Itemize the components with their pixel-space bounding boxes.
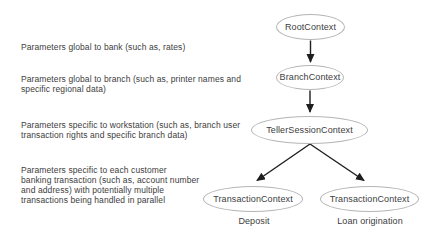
node-label: BranchContext [280, 73, 341, 82]
annotation-transaction: Parameters specific to each customer ban… [21, 165, 199, 205]
annotation-line: Parameters global to branch (such as, pr… [21, 74, 241, 84]
node-transaction-context-deposit: TransactionContext [203, 186, 303, 212]
annotation-line: banking transaction (such as, account nu… [21, 175, 199, 185]
label-loan-origination: Loan origination [337, 216, 403, 227]
arrow-teller-to-loan [310, 144, 364, 181]
annotation-line: transactions being handled in parallel [21, 195, 199, 205]
annotation-line: Parameters specific to workstation (such… [21, 120, 240, 130]
annotation-line: Parameters specific to each customer [21, 165, 199, 175]
node-root-context: RootContext [276, 14, 345, 40]
annotation-line: transaction rights and specific branch d… [21, 130, 240, 140]
annotation-bank: Parameters global to bank (such as, rate… [21, 42, 185, 52]
node-label: RootContext [285, 23, 336, 32]
node-transaction-context-loan: TransactionContext [320, 186, 419, 212]
node-label: TransactionContext [330, 195, 410, 204]
node-label: TellerSessionContext [266, 126, 353, 135]
annotation-line: specific regional data) [21, 84, 241, 94]
context-hierarchy-diagram: Parameters global to bank (such as, rate… [0, 0, 441, 238]
node-label: TransactionContext [213, 195, 293, 204]
annotation-workstation: Parameters specific to workstation (such… [21, 120, 240, 140]
label-deposit: Deposit [238, 216, 269, 227]
node-teller-session-context: TellerSessionContext [251, 116, 368, 144]
node-branch-context: BranchContext [276, 65, 344, 90]
annotation-branch: Parameters global to branch (such as, pr… [21, 74, 241, 94]
annotation-line: Parameters global to bank (such as, rate… [21, 42, 185, 52]
annotation-line: and address) with potentially multiple [21, 185, 199, 195]
arrow-teller-to-deposit [257, 144, 310, 181]
